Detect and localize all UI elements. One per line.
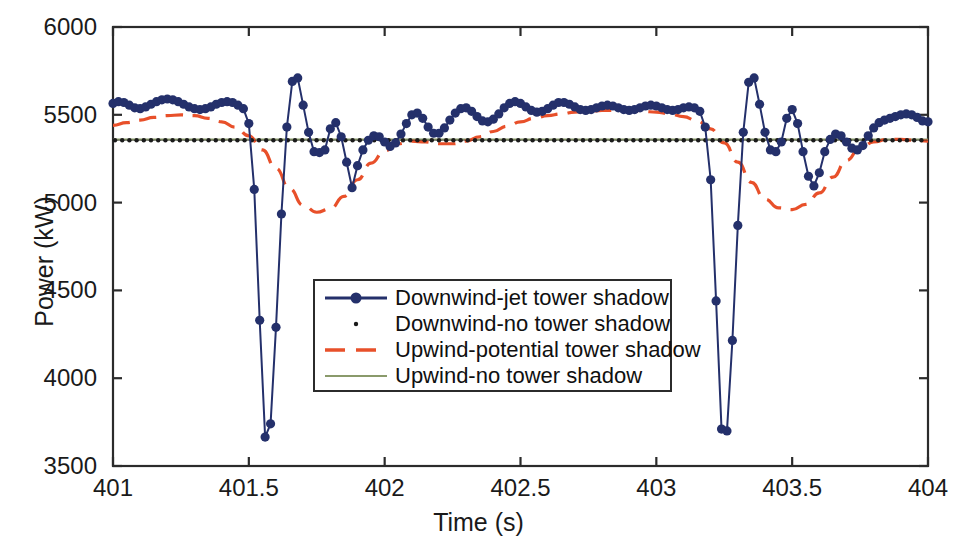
x-tick-label: 401.5 [219,474,279,502]
axis-ticks [113,27,928,466]
y-tick-label: 5500 [0,101,97,129]
x-axis-label: Time (s) [0,508,957,537]
legend-item-downwind-no: Downwind-no tower shadow [315,311,670,337]
legend-item-upwind-potential: Upwind-potential tower shadow [315,337,670,363]
axes-frame [113,27,928,466]
x-tick-label: 402.5 [490,474,550,502]
y-tick-label: 6000 [0,13,97,41]
y-tick-label: 5000 [0,189,97,217]
y-tick-label: 3500 [0,452,97,480]
legend-label-downwind-jet: Downwind-jet tower shadow [395,286,669,310]
legend-label-downwind-no: Downwind-no tower shadow [395,312,670,336]
legend-swatch-downwind-no [323,312,389,336]
legend-swatch-upwind-no [323,364,389,388]
plot-canvas [0,0,957,547]
y-axis-label: Power (kW) [30,132,59,392]
legend-swatch-upwind-potential [323,338,389,362]
legend-label-upwind-potential: Upwind-potential tower shadow [395,338,701,362]
x-tick-label: 404 [908,474,948,502]
x-tick-label: 403 [636,474,676,502]
x-tick-label: 401 [93,474,133,502]
legend-item-downwind-jet: Downwind-jet tower shadow [315,285,670,311]
legend-item-upwind-no: Upwind-no tower shadow [315,363,670,389]
legend-label-upwind-no: Upwind-no tower shadow [395,364,642,388]
legend-swatch-downwind-jet [323,286,389,310]
x-tick-label: 402 [365,474,405,502]
y-tick-label: 4000 [0,364,97,392]
x-tick-label: 403.5 [762,474,822,502]
chart-legend: Downwind-jet tower shadow Downwind-no to… [313,279,672,392]
chart-figure: Power (kW) Time (s) 35004000450050005500… [0,0,957,547]
y-tick-label: 4500 [0,276,97,304]
